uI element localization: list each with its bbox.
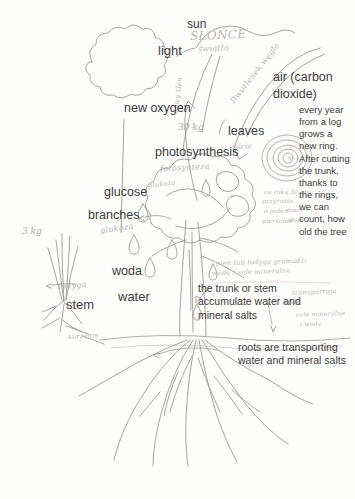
big-tree-crown-leaf-1 [216, 171, 239, 191]
big-tree-trunk-left [180, 220, 186, 336]
big-tree-branch-left [152, 240, 186, 256]
label-stem: stem [66, 298, 94, 312]
label-new-oxygen: new oxygen [124, 102, 191, 115]
big-tree-trunk-texture [189, 250, 191, 310]
leaves-pointer [219, 120, 225, 134]
label-glucose: glucose [104, 186, 147, 199]
branches-pointer-head [139, 216, 144, 221]
label-branches: branches [88, 209, 139, 222]
big-tree-crown-inner-2 [176, 208, 230, 229]
big-tree-crown-inner-1 [166, 189, 222, 206]
handwriting-rings-note-line3: o jeden [264, 207, 288, 214]
label-woda: woda [112, 265, 142, 278]
handwriting-rings-note-line1: co roku [264, 188, 289, 195]
handwriting-light-pl: światło [198, 43, 229, 54]
paragraph-tree-rings: every year from a log grows a new ring. … [299, 104, 351, 238]
label-sun: sun [187, 18, 206, 31]
stem-pointer-head [46, 284, 51, 288]
label-mass-3kg: 3 kg [22, 227, 42, 236]
label-light: light [158, 44, 182, 58]
small-tree-canopy [86, 25, 168, 98]
big-tree-branch-right [200, 238, 238, 252]
label-photosynthesis: photosynthesis [155, 146, 238, 159]
big-tree-crown-leaf-2 [227, 196, 249, 217]
label-mass-30kg: 30 kg [178, 123, 204, 132]
label-air-line2: dioxide) [273, 88, 317, 101]
label-air-line1: air (carbon [273, 71, 333, 84]
light-arc-2 [202, 56, 220, 132]
paragraph-roots: roots are transporting water and mineral… [238, 341, 350, 368]
handwriting-rings-note-line2: przyrasta [262, 197, 293, 204]
branches-pointer [145, 215, 171, 219]
roots-pointer-head [153, 353, 159, 358]
paragraph-trunk: the trunk or stem accumulate water and m… [198, 282, 310, 322]
rings-note-pointer-head [271, 326, 276, 332]
label-leaves: leaves [228, 125, 264, 138]
label-water: water [118, 290, 150, 304]
